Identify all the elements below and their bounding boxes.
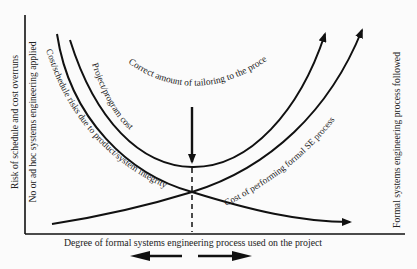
x-axis-label: Degree of formal systems engineering pro… bbox=[64, 237, 322, 248]
total-cost-curve-label: Project/program cost bbox=[90, 62, 135, 132]
right-extreme-label: Formal systems engineering process follo… bbox=[391, 52, 402, 228]
risk-curve bbox=[57, 34, 350, 222]
tradeoff-diagram: Cost/schedule risks due to product/syste… bbox=[0, 0, 417, 269]
left-direction-arrow bbox=[130, 251, 182, 261]
se-cost-curve-label: Cost of performing formal SE process bbox=[223, 114, 337, 207]
optimum-label: Correct amount of tailoring to the proce… bbox=[0, 0, 268, 88]
left-extreme-label: No or ad hoc systems engineering applied bbox=[27, 41, 38, 202]
right-direction-arrow bbox=[198, 251, 252, 261]
y-axis-label: Risk of schedule and cost overruns bbox=[9, 55, 20, 189]
